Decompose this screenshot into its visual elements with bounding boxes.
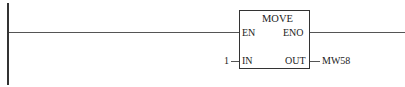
in-operand-value: 1	[224, 56, 229, 66]
out-operand-wire	[310, 61, 320, 62]
output-rung-wire	[310, 32, 405, 33]
pin-eno-label: ENO	[283, 28, 304, 38]
pin-in-label: IN	[242, 56, 253, 66]
out-operand-value: MW58	[322, 56, 350, 66]
pin-out-label: OUT	[285, 56, 306, 66]
in-operand-wire	[231, 61, 239, 62]
pin-en-label: EN	[242, 28, 255, 38]
input-rung-wire	[9, 32, 239, 33]
block-title: MOVE	[262, 14, 293, 24]
left-power-rail	[7, 3, 9, 85]
